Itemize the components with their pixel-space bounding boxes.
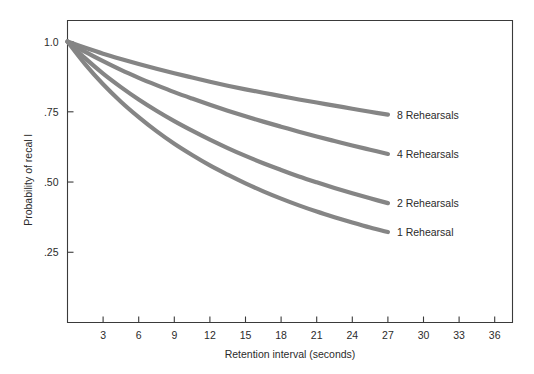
x-tick-label: 30	[418, 329, 430, 341]
y-tick-label: .25	[44, 246, 59, 258]
x-tick-label: 9	[171, 329, 177, 341]
y-axis-title: Probability of recal l	[22, 134, 34, 226]
series-end-label-2: 4 Rehearsals	[397, 148, 459, 160]
series-end-label-4: 1 Rehearsal	[397, 226, 454, 238]
x-tick-label: 21	[311, 329, 323, 341]
x-tick-label: 12	[204, 329, 216, 341]
x-tick-label: 36	[489, 329, 501, 341]
series-end-label-3: 2 Rehearsals	[397, 197, 459, 209]
x-tick-label: 33	[453, 329, 465, 341]
x-tick-label: 6	[136, 329, 142, 341]
x-tick-label: 15	[240, 329, 252, 341]
x-tick-label: 24	[346, 329, 358, 341]
y-tick-label: .75	[44, 106, 59, 118]
y-tick-label: .50	[44, 176, 59, 188]
recall-decay-chart: 369121518212427303336 .25.50.751.0 8 Reh…	[0, 0, 534, 374]
x-tick-label: 3	[100, 329, 106, 341]
x-tick-label: 18	[275, 329, 287, 341]
chart-figure: 369121518212427303336 .25.50.751.0 8 Reh…	[0, 0, 534, 374]
x-tick-label: 27	[382, 329, 394, 341]
y-tick-label: 1.0	[44, 36, 59, 48]
x-axis-title: Retention interval (seconds)	[225, 348, 356, 360]
series-end-label-1: 8 Rehearsals	[397, 109, 459, 121]
